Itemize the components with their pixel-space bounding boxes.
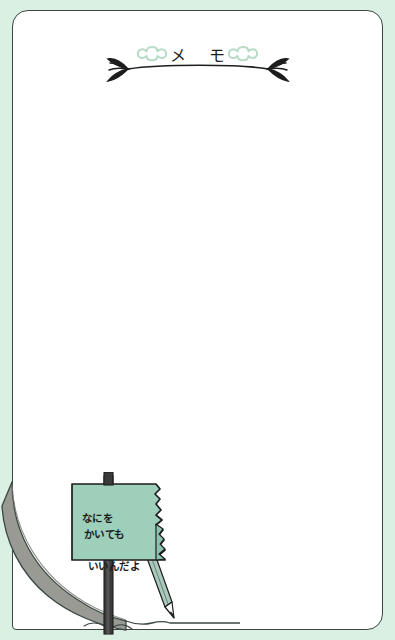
sign-line-2: かいても xyxy=(82,526,162,542)
memo-write-area[interactable] xyxy=(26,96,374,470)
sign-line-3: いいんだよ xyxy=(82,558,162,574)
page-title: メ モ xyxy=(0,48,395,64)
sign-line-1: なにを xyxy=(82,512,113,524)
sign-text: なにを かいても いいんだよ xyxy=(82,494,162,590)
memo-page: メ モ xyxy=(0,0,395,640)
